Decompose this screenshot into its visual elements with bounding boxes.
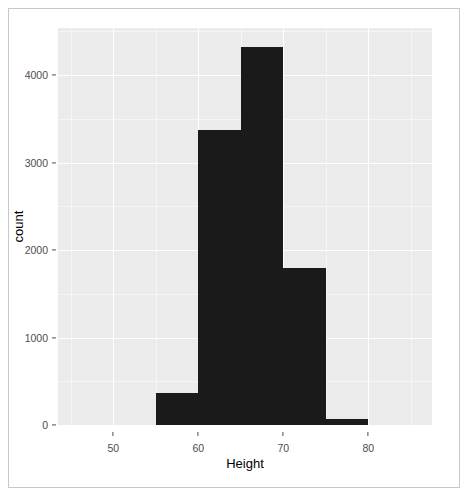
grid-line-minor-vertical — [71, 28, 72, 425]
histogram-bar — [198, 130, 241, 425]
y-axis-tick-mark — [52, 162, 56, 163]
chart-figure: 01000200030004000 count 50607080 Height — [0, 0, 469, 496]
grid-line-major-vertical — [368, 28, 369, 425]
y-axis-tick-label: 3000 — [25, 157, 48, 169]
x-axis-title-text: Height — [58, 456, 432, 471]
histogram-bar — [241, 47, 284, 425]
y-axis-title: count — [10, 28, 28, 425]
x-axis-tick-label: 60 — [192, 442, 204, 454]
histogram-bar — [326, 419, 369, 425]
x-axis-tick-mark — [113, 432, 114, 436]
x-axis-tick-labels: 50607080 — [58, 432, 432, 456]
y-axis-tick-mark — [52, 424, 56, 425]
y-axis-title-text: count — [12, 211, 27, 243]
grid-line-minor-vertical — [156, 28, 157, 425]
x-axis-tick-mark — [368, 432, 369, 436]
y-axis-tick-mark — [52, 75, 56, 76]
x-axis-tick-label: 70 — [277, 442, 289, 454]
y-axis-tick-label: 0 — [42, 419, 48, 431]
plot-panel — [58, 28, 432, 425]
grid-line-minor-vertical — [326, 28, 327, 425]
y-axis-tick-label: 1000 — [25, 332, 48, 344]
x-axis-tick-mark — [198, 432, 199, 436]
y-axis-tick-label: 2000 — [25, 244, 48, 256]
histogram-bar — [283, 268, 326, 425]
y-axis-tick-mark — [52, 337, 56, 338]
histogram-bar — [156, 393, 199, 425]
y-axis-tick-label: 4000 — [25, 69, 48, 81]
grid-line-minor-vertical — [411, 28, 412, 425]
grid-line-major-vertical — [113, 28, 114, 425]
y-axis-tick-mark — [52, 250, 56, 251]
x-axis-tick-mark — [283, 432, 284, 436]
x-axis-tick-label: 50 — [107, 442, 119, 454]
x-axis-tick-label: 80 — [362, 442, 374, 454]
